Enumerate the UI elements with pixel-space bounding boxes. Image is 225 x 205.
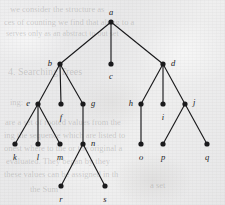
tree-node-label-a: a xyxy=(109,8,113,17)
tree-node-label-o: o xyxy=(139,153,143,162)
tree-node-label-j: j xyxy=(193,98,195,107)
tree-node-label-q: q xyxy=(205,153,209,162)
tree-edge-n-s xyxy=(83,144,105,186)
tree-node-r xyxy=(58,183,63,188)
tree-node-label-c: c xyxy=(109,72,113,81)
tree-diagram-figure: we consider the structure asces of count… xyxy=(0,0,225,205)
tree-node-label-b: b xyxy=(48,59,52,68)
tree-node-s xyxy=(102,183,107,188)
tree-edge-b-g xyxy=(60,64,83,104)
tree-node-p xyxy=(160,141,165,146)
tree-node-label-i: i xyxy=(162,113,164,122)
tree-node-c xyxy=(108,61,113,66)
tree-node-label-l: l xyxy=(37,153,39,162)
tree-edge-j-q xyxy=(185,104,207,144)
tree-edge-a-d xyxy=(111,22,163,64)
tree-node-h xyxy=(138,101,143,106)
tree-edge-d-j xyxy=(163,64,185,104)
tree-node-i xyxy=(160,101,165,106)
tree-node-label-s: s xyxy=(103,195,106,204)
tree-node-d xyxy=(160,61,165,66)
tree-node-label-r: r xyxy=(59,195,62,204)
tree-node-label-n: n xyxy=(91,139,95,148)
tree-node-e xyxy=(35,101,40,106)
tree-node-label-g: g xyxy=(91,99,95,108)
tree-graph xyxy=(0,0,225,205)
tree-node-g xyxy=(80,101,85,106)
tree-node-l xyxy=(35,141,40,146)
tree-node-k xyxy=(12,141,17,146)
tree-node-label-p: p xyxy=(161,153,165,162)
tree-node-q xyxy=(204,141,209,146)
tree-node-label-d: d xyxy=(171,59,175,68)
tree-edge-e-m xyxy=(38,104,60,144)
tree-node-m xyxy=(57,141,62,146)
tree-edge-e-k xyxy=(15,104,38,144)
tree-node-a xyxy=(108,19,113,24)
tree-edge-layer xyxy=(15,22,207,186)
tree-node-label-e: e xyxy=(26,99,30,108)
tree-edge-j-p xyxy=(163,104,185,144)
tree-node-label-f: f xyxy=(60,113,62,122)
tree-node-b xyxy=(57,61,62,66)
tree-node-o xyxy=(138,141,143,146)
tree-node-label-h: h xyxy=(129,99,133,108)
tree-edge-a-b xyxy=(60,22,111,64)
tree-node-f xyxy=(58,101,63,106)
tree-node-label-k: k xyxy=(13,153,17,162)
tree-edge-d-h xyxy=(141,64,163,104)
tree-edge-b-e xyxy=(38,64,60,104)
tree-node-n xyxy=(80,141,85,146)
tree-edge-b-f xyxy=(60,64,61,104)
tree-edge-n-r xyxy=(61,144,83,186)
tree-node-j xyxy=(182,101,187,106)
tree-node-label-m: m xyxy=(57,153,63,162)
